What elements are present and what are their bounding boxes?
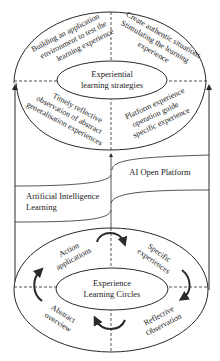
bottom-cycle: Experience Learning Circles Action appli… [14, 228, 208, 352]
ai-learning-label-1: Artificial Intelligence [26, 191, 100, 201]
ai-learning-label-2: Learning [26, 202, 57, 212]
diagram-canvas: Experiential learning strategies Buildin… [0, 0, 220, 361]
top-center-label-2: learning strategies [81, 80, 143, 90]
middle-layers: AI Open Platform Artificial Intelligence… [15, 155, 209, 222]
ai-open-platform-label: AI Open Platform [129, 167, 191, 177]
top-cycle: Experiential learning strategies Buildin… [14, 9, 207, 150]
diagram-svg: Experiential learning strategies Buildin… [0, 0, 220, 361]
bottom-center-label-2: Learning Circles [84, 289, 141, 299]
bottom-center-label-1: Experience [93, 278, 131, 288]
top-center-label-1: Experiential [91, 69, 133, 79]
